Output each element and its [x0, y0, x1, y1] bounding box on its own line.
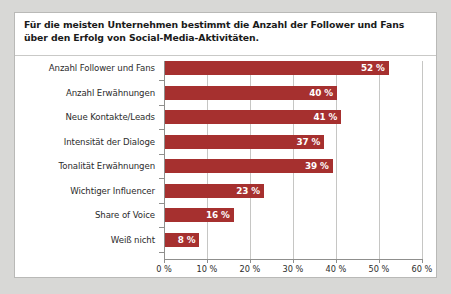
x-axis-tick: [336, 259, 337, 263]
x-axis-tick-label: 60 %: [412, 264, 433, 274]
category-label: Share of Voice: [19, 210, 155, 220]
category-label: Intensität der Dialoge: [19, 137, 155, 147]
bar-value-label: 41 %: [314, 112, 338, 122]
bar: 23 %: [165, 184, 264, 198]
bar: 8 %: [165, 233, 199, 247]
gridline: [379, 61, 380, 259]
x-axis-tick-label: 40 %: [326, 264, 347, 274]
bar-value-label: 8 %: [178, 235, 196, 245]
y-axis-tick: [159, 154, 164, 155]
bar: 37 %: [165, 135, 324, 149]
y-axis-tick: [159, 129, 164, 130]
chart-title-bar: Für die meisten Unternehmen bestimmt die…: [15, 13, 436, 56]
category-label: Weiß nicht: [19, 235, 155, 245]
x-axis-tick: [164, 259, 165, 263]
x-axis-tick-label: 50 %: [369, 264, 390, 274]
bar-value-label: 23 %: [236, 186, 260, 196]
x-axis-tick-label: 0 %: [156, 264, 172, 274]
bar: 16 %: [165, 208, 234, 222]
bar-value-label: 52 %: [361, 63, 385, 73]
x-axis-tick-label: 10 %: [197, 264, 218, 274]
x-axis-tick: [293, 259, 294, 263]
category-label: Neue Kontakte/Leads: [19, 112, 155, 122]
bar: 39 %: [165, 159, 333, 173]
x-axis-tick: [250, 259, 251, 263]
x-axis-tick-label: 20 %: [240, 264, 261, 274]
bar-value-label: 40 %: [309, 88, 333, 98]
y-axis-tick: [159, 252, 164, 253]
category-label: Wichtiger Influencer: [19, 186, 155, 196]
x-axis-tick: [422, 259, 423, 263]
y-axis-tick: [159, 105, 164, 106]
page-title: Für die meisten Unternehmen bestimmt die…: [24, 18, 428, 44]
chart-figure: Für die meisten Unternehmen bestimmt die…: [14, 12, 437, 278]
bar-value-label: 39 %: [305, 161, 329, 171]
x-axis-tick-label: 30 %: [283, 264, 304, 274]
chart-plot-area: 0 %10 %20 %30 %40 %50 %60 %Anzahl Follow…: [15, 56, 436, 277]
y-axis-tick: [159, 203, 164, 204]
category-label: Tonalität Erwähnungen: [19, 161, 155, 171]
bar: 41 %: [165, 110, 341, 124]
bar: 52 %: [165, 61, 389, 75]
category-label: Anzahl Erwähnungen: [19, 88, 155, 98]
gridline: [422, 61, 423, 259]
category-label: Anzahl Follower und Fans: [19, 63, 155, 73]
x-axis-tick: [207, 259, 208, 263]
bar: 40 %: [165, 86, 337, 100]
y-axis-tick: [159, 227, 164, 228]
x-axis-tick: [379, 259, 380, 263]
bar-value-label: 37 %: [296, 137, 320, 147]
y-axis-tick: [159, 80, 164, 81]
y-axis-tick: [159, 178, 164, 179]
bar-value-label: 16 %: [206, 210, 230, 220]
